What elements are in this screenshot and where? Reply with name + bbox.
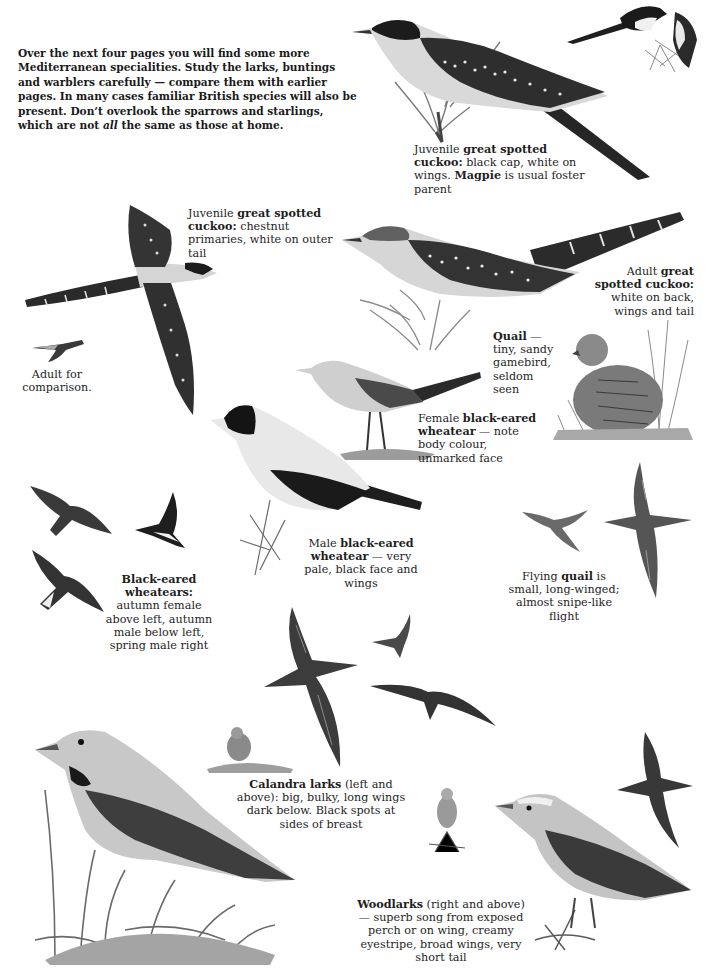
caption-female-wheatear: Female black-eared wheatear — note body …: [418, 412, 538, 465]
caption-bold-text: Black-eared wheatears:: [122, 572, 197, 599]
wheatear-flying-autumn-female-illustration: [28, 484, 113, 544]
caption-woodlarks: Woodlarks (right and above) — superb son…: [356, 898, 526, 964]
caption-adult-cuckoo: Adult great spotted cuckoo: white on bac…: [588, 265, 694, 318]
caption-flying-quail: Flying quail is small, long-winged; almo…: [508, 570, 620, 623]
caption-quail: Quail — tiny, sandy gamebird, seldom see…: [493, 330, 563, 396]
caption-wheatears-flying: Black-eared wheatears: autumn female abo…: [104, 573, 214, 652]
quail-flying-small-illustration: [520, 508, 590, 556]
lower-wing: [143, 283, 194, 415]
caption-male-wheatear: Male black-eared wheatear — very pale, b…: [296, 537, 426, 590]
magpie-illustration: [565, 0, 709, 80]
intro-paragraph: Over the next four pages you will find s…: [18, 46, 358, 132]
caption-text: Female: [418, 412, 463, 425]
caption-text: white on back, wings and tail: [611, 291, 694, 317]
caption-bold-text: Quail: [493, 329, 527, 343]
caption-text: autumn female above left, autumn male be…: [106, 599, 212, 652]
calandra-lark-flying-wide-illustration: [368, 680, 498, 728]
upper-wing: [128, 205, 171, 267]
caption-bold-text: quail: [561, 569, 593, 583]
caption-bold-text: Woodlarks: [357, 897, 423, 911]
caption-text: Juvenile: [188, 207, 237, 220]
caption-text: Juvenile: [414, 143, 463, 156]
caption-text: Male: [308, 537, 340, 550]
caption-adult-for-comparison: Adult for comparison.: [14, 368, 100, 394]
caption-bold-text: Calandra larks: [249, 777, 341, 791]
tail: [25, 275, 143, 307]
wheatear-flying-spring-male-illustration: [133, 490, 188, 555]
caption-text: Adult: [627, 265, 661, 278]
calandra-lark-flying-small-illustration: [370, 612, 415, 660]
caption-bold-text: Magpie: [454, 168, 501, 182]
wheatear-flying-autumn-male-illustration: [28, 548, 108, 618]
woodlark-perched-small-illustration: [425, 782, 470, 857]
caption-juvenile-cuckoo-flying: Juvenile great spotted cuckoo: chestnut …: [188, 207, 333, 260]
caption-text: Flying: [522, 570, 561, 583]
caption-calandra-larks: Calandra larks (left and above): big, bu…: [236, 778, 406, 831]
adult-cuckoo-flying-small-illustration: [32, 338, 87, 363]
calandra-lark-standing-illustration: [25, 710, 300, 965]
intro-italic: all: [103, 119, 118, 131]
caption-text: Adult for comparison.: [22, 368, 92, 394]
quail-illustration: [548, 320, 698, 445]
intro-text-end: the same as those at home.: [118, 119, 284, 131]
caption-juvenile-cuckoo-perched: Juvenile great spotted cuckoo: black cap…: [414, 143, 594, 196]
